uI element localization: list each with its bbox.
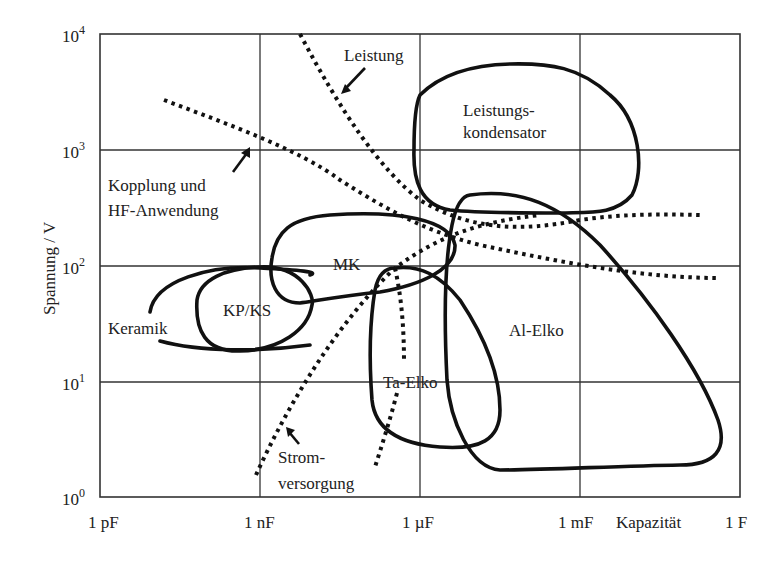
label-strom: Strom- [278, 448, 326, 467]
curve-kopplung-hf [164, 100, 720, 278]
label-keramik: Keramik [108, 319, 168, 338]
label-kopplung: Kopplung und [108, 176, 206, 195]
y-tick-1e3: 103 [62, 139, 85, 162]
label-al-elko: Al-Elko [509, 321, 564, 340]
y-tick-1e1: 101 [62, 371, 85, 394]
label-kpks: KP/KS [223, 301, 271, 320]
label-ta-elko: Ta-Elko [383, 373, 438, 392]
grid [100, 34, 740, 497]
region-mk [271, 214, 455, 303]
region-ta-elko [370, 267, 500, 447]
y-axis-label: Spannung / V [40, 221, 59, 315]
x-tick-1nF: 1 nF [244, 513, 275, 532]
x-tick-1F: 1 F [725, 513, 747, 532]
arrow-leistung [346, 68, 365, 88]
application-curves [164, 34, 720, 475]
capacitor-voltage-capacitance-chart: 104 103 102 101 100 Spannung / V 1 pF 1 … [0, 0, 781, 575]
y-tick-1e2: 102 [62, 255, 85, 278]
capacitor-regions [150, 64, 721, 470]
label-leistung: Leistung [344, 46, 404, 65]
label-leistungs: Leistungs- [463, 101, 535, 120]
y-tick-labels: 104 103 102 101 100 [62, 23, 85, 509]
label-kondensator: kondensator [463, 123, 546, 142]
curve-stromversorgung-2 [395, 268, 404, 363]
x-tick-1uF: 1 µF [402, 513, 434, 532]
region-labels: Keramik KP/KS MK Ta-Elko Al-Elko Leistun… [108, 46, 564, 493]
arrow-kopplung [233, 153, 247, 172]
label-mk: MK [333, 255, 361, 274]
x-tick-1pF: 1 pF [88, 513, 119, 532]
label-hf-anwendung: HF-Anwendung [108, 201, 219, 220]
y-tick-1e4: 104 [62, 23, 85, 46]
region-al-elko [445, 193, 721, 470]
y-tick-1e0: 100 [62, 486, 85, 509]
x-tick-1mF: 1 mF [558, 513, 593, 532]
label-versorgung: versorgung [278, 474, 355, 493]
x-axis-label: Kapazität [616, 513, 681, 532]
